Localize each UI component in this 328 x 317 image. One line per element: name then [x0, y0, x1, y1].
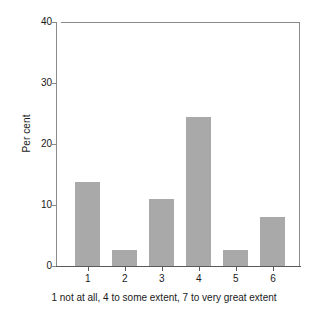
- y-tick-mark: [51, 205, 56, 206]
- x-tick-label: 5: [233, 274, 239, 284]
- y-tick-mark: [51, 22, 56, 23]
- x-tick-mark: [199, 266, 200, 271]
- x-tick-mark: [125, 266, 126, 271]
- x-tick-label: 3: [159, 274, 165, 284]
- x-tick-mark: [273, 266, 274, 271]
- x-tick-mark: [162, 266, 163, 271]
- bar-chart-figure: Per cent 010203040 123456 1 not at all, …: [0, 0, 328, 317]
- x-tick-mark: [236, 266, 237, 271]
- bar: [112, 250, 137, 266]
- bar: [186, 117, 211, 266]
- bar: [260, 217, 285, 266]
- x-tick-mark: [88, 266, 89, 271]
- bar: [223, 250, 248, 266]
- x-tick-label: 4: [196, 274, 202, 284]
- bar: [75, 182, 100, 266]
- y-tick-mark: [51, 144, 56, 145]
- y-axis-tick-labels: 010203040: [30, 0, 52, 317]
- x-tick-label: 2: [122, 274, 128, 284]
- y-axis-line: [56, 22, 57, 266]
- bar-series: [61, 22, 300, 266]
- y-tick-mark: [51, 83, 56, 84]
- x-tick-label: 6: [270, 274, 276, 284]
- bar: [149, 199, 174, 266]
- x-axis-caption: 1 not at all, 4 to some extent, 7 to ver…: [0, 292, 328, 303]
- x-tick-label: 1: [85, 274, 91, 284]
- x-axis-tick-labels: 123456: [61, 274, 300, 288]
- x-axis-line: [56, 266, 301, 267]
